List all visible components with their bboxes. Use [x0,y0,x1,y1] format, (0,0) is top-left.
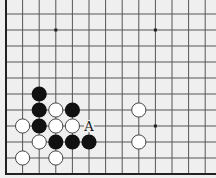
white-stone [16,119,30,133]
white-stone [49,119,63,133]
white-stone [49,151,63,165]
white-stone [65,119,79,133]
black-stone [32,118,47,133]
black-stone [65,102,80,117]
black-stone [65,134,80,149]
star-point-icon [154,29,157,32]
white-stone [132,103,146,117]
black-stone [32,102,47,117]
black-stone [81,134,96,149]
board-grid: A [0,0,216,178]
white-stone [49,103,63,117]
star-point-icon [54,29,57,32]
white-stone [32,135,46,149]
star-point-icon [154,125,157,128]
point-label: A [83,119,94,134]
white-stone [132,135,146,149]
white-stone [16,151,30,165]
black-stone [32,86,47,101]
black-stone [48,134,63,149]
go-board: A [0,0,216,178]
